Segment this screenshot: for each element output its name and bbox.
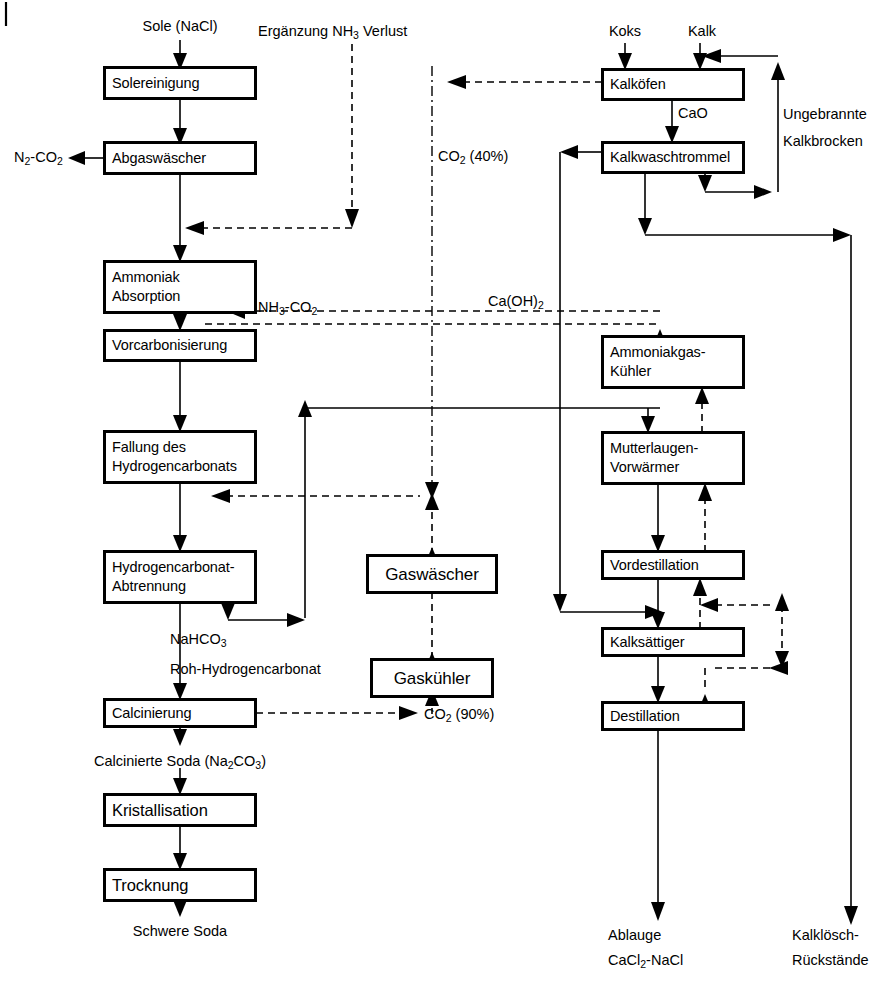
label-nh3-co2: NH3-CO2: [258, 298, 317, 321]
box-label-line2: Hydrogencarbonats: [112, 457, 237, 476]
label-schwere-soda-output: Schwere Soda: [133, 922, 227, 941]
label-ergaenzung-nh3-verlust: Ergänzung NH3 Verlust: [258, 22, 407, 45]
process-box-kalksaettiger[interactable]: Kalksättiger: [603, 629, 743, 655]
box-label-line1: Ammoniak: [112, 268, 180, 287]
label-ablauge-2: CaCl2-NaCl: [608, 951, 683, 974]
process-box-abgaswaescher[interactable]: Abgaswäscher: [105, 143, 255, 173]
process-box-hydrogencarbonat-abtrennung[interactable]: Hydrogencarbonat- Abtrennung: [105, 552, 255, 602]
process-box-ammoniakgas-kuehler[interactable]: Ammoniakgas- Kühler: [603, 337, 743, 387]
label-ablauge-1: Ablauge: [608, 926, 661, 945]
box-label-line1: Mutterlaugen-: [610, 439, 698, 458]
label-roh-hydrogencarbonat: Roh-Hydrogencarbonat: [170, 660, 321, 679]
box-label-line1: Hydrogencarbonat-: [112, 558, 234, 577]
label-sole-input: Sole (NaCl): [143, 17, 218, 36]
box-label-line2: Absorption: [112, 287, 180, 306]
process-box-gaskuehler[interactable]: Gaskühler: [372, 660, 492, 696]
process-box-ammoniak-absorption[interactable]: Ammoniak Absorption: [105, 262, 255, 312]
label-co2-40-percent: CO2 (40%): [438, 147, 508, 170]
process-box-vorcarbonisierung[interactable]: Vorcarbonisierung: [105, 331, 255, 360]
process-box-kalkoefen[interactable]: Kalköfen: [603, 70, 743, 99]
box-label-line2: Vorwärmer: [610, 458, 679, 477]
process-box-trocknung[interactable]: Trocknung: [105, 870, 255, 900]
label-ungebrannte-kalkbrocken-1: Ungebrannte: [783, 105, 867, 124]
box-label: Kristallisation: [112, 801, 208, 820]
label-kalkloesch-rueckstaende-1: Kalklösch-: [792, 926, 859, 945]
label-nahco3: NaHCO3: [170, 630, 227, 653]
process-box-fallung-hydrogencarbonat[interactable]: Fallung des Hydrogencarbonats: [105, 432, 255, 482]
label-kalkloesch-rueckstaende-2: Rückstände: [792, 951, 869, 970]
box-label: Kalkwaschtrommel: [610, 148, 730, 167]
box-label: Vorcarbonisierung: [112, 336, 227, 355]
label-ca-oh-2: Ca(OH)2: [488, 292, 544, 315]
page-corner-mark: [0, 0, 30, 40]
process-box-vordestillation[interactable]: Vordestillation: [603, 552, 743, 578]
box-label: Destillation: [610, 707, 680, 726]
label-co2-90-percent: CO2 (90%): [424, 705, 494, 728]
box-label: Solereinigung: [112, 74, 199, 93]
label-koks-input: Koks: [609, 22, 641, 41]
box-label: Vordestillation: [610, 556, 699, 575]
box-label: Kalksättiger: [610, 633, 685, 652]
box-label: Gaswäscher: [385, 565, 478, 584]
box-label: Kalköfen: [610, 75, 666, 94]
process-box-kristallisation[interactable]: Kristallisation: [105, 795, 255, 825]
process-box-kalkwaschtrommel[interactable]: Kalkwaschtrommel: [603, 143, 743, 172]
flow-diagram-canvas: Solereinigung Abgaswäscher Ammoniak Abso…: [0, 0, 890, 982]
box-label: Calcinierung: [112, 704, 191, 723]
box-label: Gaskühler: [394, 669, 471, 688]
box-label: Trocknung: [112, 876, 188, 895]
process-box-mutterlaugen-vorwaermer[interactable]: Mutterlaugen- Vorwärmer: [603, 433, 743, 483]
label-ungebrannte-kalkbrocken-2: Kalkbrocken: [783, 132, 863, 151]
box-label: Abgaswäscher: [112, 149, 206, 168]
box-label-line2: Abtrennung: [112, 577, 186, 596]
process-box-destillation[interactable]: Destillation: [603, 703, 743, 729]
process-box-calcinierung[interactable]: Calcinierung: [105, 700, 255, 726]
process-box-solereinigung[interactable]: Solereinigung: [105, 68, 255, 98]
label-cao: CaO: [678, 104, 708, 123]
box-label-line1: Ammoniakgas-: [610, 343, 706, 362]
box-label-line1: Fallung des: [112, 438, 186, 457]
process-box-gaswaescher[interactable]: Gaswäscher: [368, 556, 496, 592]
label-calcinierte-soda: Calcinierte Soda (Na2CO3): [94, 752, 266, 775]
box-label-line2: Kühler: [610, 362, 651, 381]
label-kalk-input: Kalk: [688, 22, 716, 41]
label-n2-co2-output: N2-CO2: [14, 148, 63, 171]
